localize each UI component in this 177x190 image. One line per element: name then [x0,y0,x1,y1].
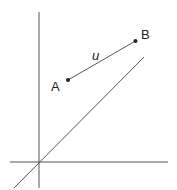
point-b-dot [134,39,138,43]
point-a-label: A [51,80,60,93]
segment-u [68,41,136,80]
diagram-canvas: A B u [0,0,177,190]
point-b-label: B [141,28,150,41]
point-a-dot [66,78,70,82]
diagonal-line [14,57,144,188]
diagram-svg [0,0,177,190]
segment-u-label: u [92,49,99,62]
